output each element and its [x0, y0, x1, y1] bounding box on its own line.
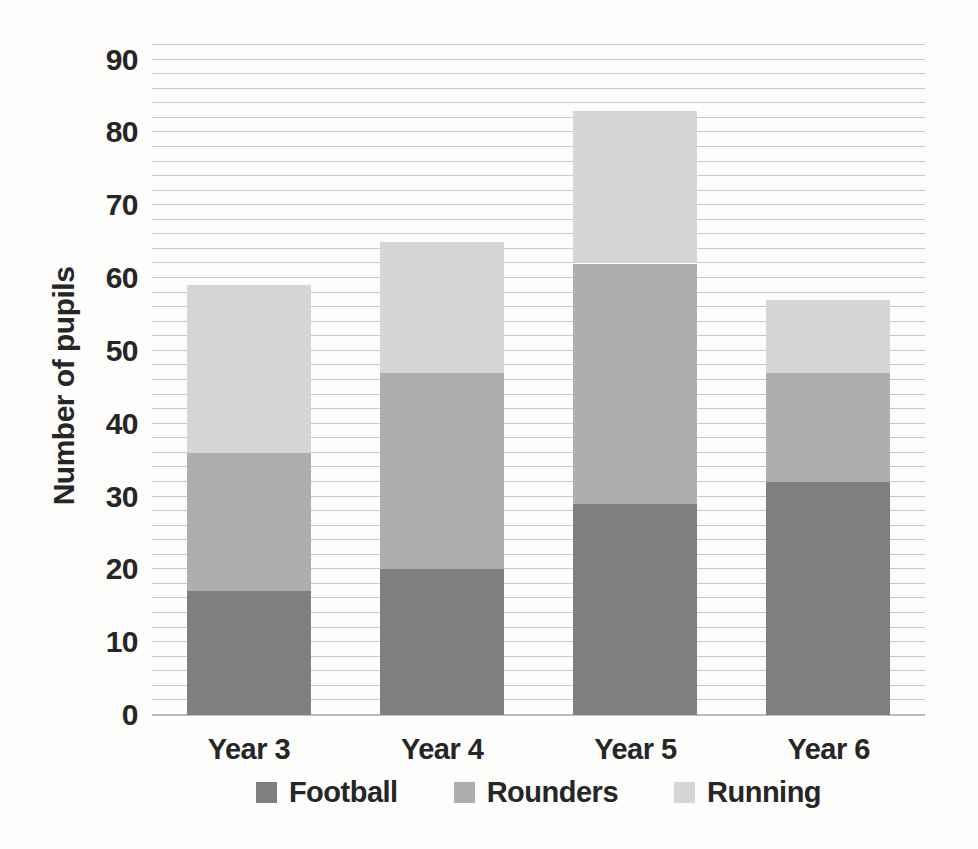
y-tick-label-70: 70	[40, 189, 138, 221]
bar-segment-football-year-3	[187, 591, 311, 715]
bar-segment-rounders-year-4	[380, 373, 504, 570]
legend-item-football: Football	[256, 776, 398, 809]
x-category-label-year-6: Year 6	[732, 733, 926, 766]
bar-segment-rounders-year-5	[573, 264, 697, 504]
gridline-82	[152, 117, 925, 118]
legend-item-rounders: Rounders	[454, 776, 618, 809]
y-tick-label-60: 60	[40, 262, 138, 294]
x-category-label-year-3: Year 3	[152, 733, 346, 766]
bar-segment-running-year-6	[766, 300, 890, 373]
stacked-bar-chart: Number of pupils 0102030405060708090 Yea…	[0, 0, 978, 849]
running-swatch	[674, 782, 695, 803]
bar-segment-football-year-6	[766, 482, 890, 715]
gridline-74	[152, 175, 925, 176]
y-tick-label-40: 40	[40, 408, 138, 440]
gridline-84	[152, 102, 925, 103]
y-tick-label-90: 90	[40, 44, 138, 76]
bar-segment-running-year-4	[380, 242, 504, 373]
legend-label-running: Running	[707, 776, 821, 809]
bar-segment-football-year-4	[380, 569, 504, 715]
legend: Football Rounders Running	[152, 776, 925, 809]
plot-area	[152, 45, 925, 715]
y-tick-label-50: 50	[40, 335, 138, 367]
gridline-66	[152, 233, 925, 234]
y-tick-label-80: 80	[40, 116, 138, 148]
bar-segment-rounders-year-6	[766, 373, 890, 482]
gridline-80	[152, 131, 925, 132]
y-axis-title: Number of pupils	[47, 267, 81, 506]
gridline-60	[152, 277, 925, 278]
x-category-label-year-5: Year 5	[539, 733, 733, 766]
gridline-76	[152, 161, 925, 162]
bar-segment-rounders-year-3	[187, 453, 311, 591]
football-swatch	[256, 782, 277, 803]
gridline-68	[152, 219, 925, 220]
gridline-72	[152, 190, 925, 191]
gridline-78	[152, 146, 925, 147]
y-tick-label-20: 20	[40, 553, 138, 585]
gridline-62	[152, 262, 925, 263]
legend-label-football: Football	[289, 776, 398, 809]
gridline-92	[152, 44, 925, 45]
y-tick-label-10: 10	[40, 626, 138, 658]
y-tick-label-0: 0	[40, 699, 138, 731]
x-category-label-year-4: Year 4	[345, 733, 539, 766]
bar-segment-football-year-5	[573, 504, 697, 715]
gridline-64	[152, 248, 925, 249]
gridline-90	[152, 59, 925, 60]
gridline-70	[152, 204, 925, 205]
y-tick-label-30: 30	[40, 481, 138, 513]
legend-label-rounders: Rounders	[487, 776, 618, 809]
bar-segment-running-year-5	[573, 111, 697, 264]
gridline-88	[152, 73, 925, 74]
gridline-86	[152, 88, 925, 89]
bar-segment-running-year-3	[187, 285, 311, 453]
legend-item-running: Running	[674, 776, 821, 809]
rounders-swatch	[454, 782, 475, 803]
